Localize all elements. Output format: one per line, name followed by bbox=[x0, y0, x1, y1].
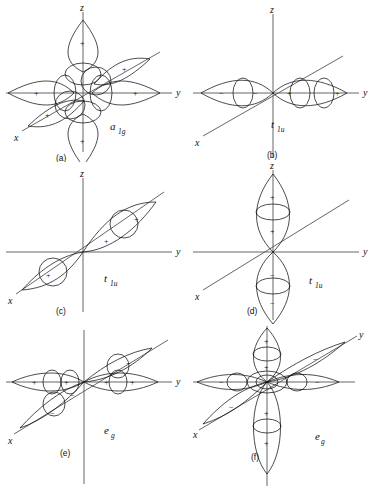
symmetry-sub: 1u bbox=[110, 279, 118, 288]
sign-minus-y-right: − bbox=[315, 378, 320, 387]
symmetry-main: a bbox=[110, 120, 116, 132]
sign-plus-y-left-outer: + bbox=[32, 378, 37, 387]
panel-c-drawing: + + + z y x t 1u (c) bbox=[0, 162, 187, 324]
sign-plus-z-upper: + bbox=[264, 337, 269, 346]
axis-label-x: x bbox=[13, 132, 19, 143]
sign-plus-y: + bbox=[133, 89, 138, 98]
sign-plus-outer: + bbox=[270, 193, 275, 202]
lobe-minus-x-lower: − − bbox=[20, 382, 84, 428]
sign-plus-y-outer: + bbox=[130, 378, 135, 387]
sign-plus-x: + bbox=[122, 65, 127, 74]
sign-plus-outer: + bbox=[134, 215, 139, 224]
x-axis bbox=[16, 192, 164, 294]
axis-label-y: y bbox=[175, 87, 181, 98]
lobe-plus-x: + + bbox=[83, 202, 156, 252]
axis-lines bbox=[6, 12, 172, 152]
sign-minus-x-pos: + bbox=[45, 111, 50, 120]
axis-label-y: y bbox=[362, 246, 368, 257]
axis-label-y: y bbox=[175, 376, 181, 387]
x-axis bbox=[203, 200, 349, 290]
panel-f: + + + + − − − bbox=[187, 324, 374, 486]
lobe-minus-x-lower: − bbox=[203, 382, 267, 424]
symmetry-sub: 1g bbox=[118, 127, 126, 136]
sign-minus-x-outer: − bbox=[126, 359, 131, 368]
symmetry-main: t bbox=[104, 272, 108, 284]
axis-label-x: x bbox=[7, 295, 13, 306]
panel-d: + + − − z y x t 1u (d) bbox=[187, 162, 374, 324]
symmetry-label-f: e g bbox=[315, 430, 325, 446]
sign-minus-y-left: − bbox=[219, 378, 224, 387]
lobe-minus-x-upper: − bbox=[267, 342, 345, 382]
figure-canvas: + + + + + + z y x a 1g (a) bbox=[0, 0, 374, 487]
symmetry-sub: 1u bbox=[277, 125, 285, 134]
panel-b-drawing: + + − − z y x t 1u (b) bbox=[187, 0, 374, 162]
panel-caption: (b) bbox=[267, 150, 278, 160]
sign-minus-x-lower: − bbox=[50, 409, 55, 418]
axis-label-z: z bbox=[79, 168, 84, 179]
axis-lines bbox=[6, 178, 172, 312]
sign-minus-y-pos: + bbox=[34, 89, 39, 98]
sign-minus-outer: − bbox=[219, 89, 224, 98]
panel-f-drawing: + + + + − − − bbox=[187, 324, 374, 487]
panel-a: + + + + + + z y x a 1g (a) bbox=[0, 0, 187, 162]
panel-a-drawing: + + + + + + z y x a 1g (a) bbox=[0, 0, 187, 162]
axis-label-y: y bbox=[362, 87, 368, 98]
symmetry-label-c: t 1u bbox=[104, 272, 118, 288]
symmetry-label-d: t 1u bbox=[309, 274, 323, 290]
panel-e-drawing: + + + + − − − y x bbox=[0, 324, 187, 487]
sign-minus-x-lower-inner: − bbox=[70, 391, 75, 400]
axis-label-z: z bbox=[269, 4, 274, 15]
axis-label-x: x bbox=[194, 291, 200, 302]
sign-minus-outer: − bbox=[270, 271, 275, 280]
symmetry-sub: 1u bbox=[315, 281, 323, 290]
sign-plus-y-left-inner: + bbox=[64, 378, 69, 387]
panel-b: + + − − z y x t 1u (b) bbox=[187, 0, 374, 162]
axis-label-z: z bbox=[79, 2, 84, 13]
lobe-minus-x: + bbox=[22, 252, 83, 290]
panel-d-drawing: + + − − z y x t 1u (d) bbox=[187, 162, 374, 324]
sign-minus-x-lower: − bbox=[229, 403, 234, 412]
symmetry-label-a: a 1g bbox=[110, 120, 126, 136]
axis-label-x: x bbox=[194, 137, 200, 148]
sign-plus-outer: + bbox=[335, 89, 340, 98]
panel-caption: (a) bbox=[56, 153, 67, 162]
sign-plus-outer-x: + bbox=[46, 271, 51, 280]
axis-lines bbox=[193, 326, 357, 486]
lobe-minus-x-upper: − bbox=[84, 348, 152, 382]
sign-plus-inner: + bbox=[287, 89, 292, 98]
symmetry-sub: g bbox=[111, 431, 115, 440]
symmetry-main: t bbox=[309, 274, 313, 286]
symmetry-label-e: e g bbox=[104, 424, 115, 440]
sign-plus-z-down-lower: + bbox=[264, 439, 269, 448]
panel-e: + + + + − − − y x bbox=[0, 324, 187, 486]
sign-minus-inner: − bbox=[270, 299, 275, 308]
axis-lines bbox=[193, 14, 359, 158]
axis-label-z: z bbox=[269, 162, 274, 171]
sign-minus-x-upper: − bbox=[313, 355, 318, 364]
sign-minus-z-pos: + bbox=[80, 137, 85, 146]
axis-label-x: x bbox=[7, 435, 13, 446]
axis-label-y: y bbox=[175, 246, 181, 257]
panel-caption: (f) bbox=[251, 452, 259, 462]
sign-plus-inner: + bbox=[270, 227, 275, 236]
sign-plus-z: + bbox=[80, 39, 85, 48]
panel-caption: (d) bbox=[247, 306, 258, 316]
sign-plus-inner: + bbox=[104, 237, 109, 246]
panel-caption: (c) bbox=[56, 306, 66, 316]
symmetry-main: e bbox=[104, 424, 109, 436]
symmetry-main: e bbox=[315, 430, 320, 442]
sign-plus-y-inner: + bbox=[104, 378, 109, 387]
panel-c: + + + z y x t 1u (c) bbox=[0, 162, 187, 324]
axis-label-y: y bbox=[358, 329, 364, 340]
axis-label-x: x bbox=[192, 429, 198, 440]
symmetry-sub: g bbox=[321, 437, 325, 446]
sign-minus-inner: − bbox=[253, 89, 258, 98]
panel-caption: (e) bbox=[60, 448, 71, 458]
sign-plus-z-down-upper: + bbox=[264, 409, 269, 418]
axis-lines bbox=[193, 170, 359, 320]
symmetry-main: t bbox=[271, 118, 275, 130]
